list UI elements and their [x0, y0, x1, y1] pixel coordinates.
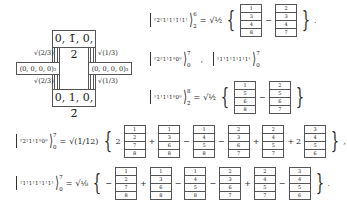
equation-4: ²2²1¹1⁰0⁰ ⟩ 70 = √(1/12) { 2 1278 + 1368… — [14, 122, 347, 160]
young-tableau: 25 67 — [269, 81, 291, 114]
young-tableau: 1368 — [150, 167, 172, 200]
ket-state: ²2²1¹1¹1¹1¹ ⟩ 62 — [148, 11, 199, 29]
left-bottom-coefficient: √(2/3) — [34, 78, 54, 85]
equation-1: ²2²1¹1¹1¹1¹ ⟩ 62 = √½ { 13 48 − 23 47 } … — [148, 2, 318, 38]
young-tableau: 1458 — [193, 125, 215, 158]
coefficient: √⅛ — [75, 179, 88, 188]
coefficient: √½ — [203, 93, 216, 102]
young-tableau: 2457 — [262, 125, 284, 158]
coefficient: √½ — [209, 16, 222, 25]
ket-state: ¹1¹1¹1⁰0⁰ ⟩ 82̄ — [148, 88, 192, 106]
ket-state: ¹1¹1¹1¹1¹1¹ ⟩ 70 — [211, 50, 262, 68]
right-top-coefficient: √(1/3) — [98, 50, 118, 57]
young-tableau: 1458 — [184, 167, 206, 200]
equation-2: ²2²1¹1⁰0⁰ ⟩ 70 , ¹1¹1¹1¹1¹1¹ ⟩ 70 — [148, 46, 262, 72]
bottom-weight-box: 0, 1, 0, 2̄ — [52, 89, 96, 107]
right-top-connector — [88, 48, 96, 62]
right-bottom-connector — [88, 75, 96, 89]
young-tableau: 2457 — [254, 167, 276, 200]
ket-state: ²2²1¹1⁰0⁰ ⟩ 70 — [148, 50, 192, 68]
equation-3: ¹1¹1¹1⁰0⁰ ⟩ 82̄ = √½ { 15 68 − 25 67 } — [148, 78, 307, 116]
equation-5: ¹1¹1¹1¹1¹1¹ ⟩ 70 = √⅛ { − 1278 + 1368 − … — [14, 164, 331, 202]
young-tableau: 15 68 — [234, 81, 256, 114]
ket-state: ²2²1¹1⁰0⁰ ⟩ 70 — [14, 132, 58, 150]
young-tableau: 2367 — [219, 167, 241, 200]
young-tableau: 13 48 — [240, 4, 262, 37]
ket-state: ¹1¹1¹1¹1¹1¹ ⟩ 70 — [14, 174, 65, 192]
right-weight-box: (0, 0, 0, 0)₃ — [88, 62, 132, 75]
right-bottom-coefficient: √(1/3) — [98, 78, 118, 85]
left-top-coefficient: √(2/3) — [34, 50, 54, 57]
young-tableau: 23 47 — [275, 4, 297, 37]
young-tableau: 3456 — [304, 125, 326, 158]
young-tableau: 2367 — [228, 125, 250, 158]
coefficient: √(1/12) — [69, 137, 98, 146]
young-tableau: 3456 — [289, 167, 311, 200]
young-tableau: 1278 — [115, 167, 137, 200]
left-weight-box: (0, 0, 0, 0)₂ — [16, 62, 60, 75]
young-tableau: 1278 — [124, 125, 146, 158]
top-weight-box: 0, 1̄, 0, 2 — [52, 30, 96, 48]
young-tableau: 1368 — [158, 125, 180, 158]
